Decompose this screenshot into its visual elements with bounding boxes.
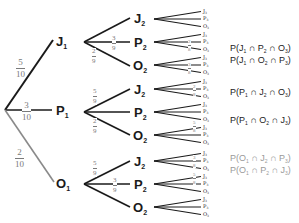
fraction-J1-P2-O3: 28 [188, 39, 191, 52]
branch-level3 [154, 35, 201, 43]
fraction-O1-J2-P3: 38 [193, 155, 196, 168]
branch-level3 [154, 19, 201, 27]
leaf-O3: O3 [203, 166, 209, 172]
leaf-O3: O3 [203, 47, 209, 53]
leaf-O3: O3 [203, 94, 209, 100]
node-P1-O2: O2 [133, 129, 147, 144]
branch-level3 [154, 12, 201, 20]
leaf-P3: P3 [203, 158, 208, 164]
node-O1: O1 [56, 177, 70, 192]
probability-P1-O2-J3: P(P1 ∩ O2 ∩ J3) [230, 116, 291, 126]
node-P1: P1 [56, 104, 69, 119]
fraction-P1: 310 [22, 101, 31, 122]
fraction-P1-J2: 59 [93, 88, 97, 105]
leaf-J3: J3 [203, 151, 207, 157]
branch-level3 [154, 105, 201, 113]
node-P1-P2: P2 [134, 106, 147, 121]
probability-J1-P2-O3: P(J1 ∩ P2 ∩ O3) [230, 44, 291, 54]
leaf-J3: J3 [203, 125, 207, 131]
node-O1-O2: O2 [133, 201, 147, 216]
leaf-O3: O3 [203, 70, 209, 76]
branch-root-J1 [5, 40, 53, 110]
fraction-O1-J2: 59 [93, 160, 97, 177]
fraction-O1-P2: 39 [113, 177, 117, 194]
fraction-J1: 510 [16, 58, 25, 79]
branch-level3 [154, 112, 201, 120]
branch-level3 [154, 58, 201, 66]
node-J1-P2: P2 [134, 36, 147, 51]
leaf-P3: P3 [203, 109, 208, 115]
leaf-J3: J3 [203, 102, 207, 108]
leaf-P3: P3 [203, 16, 208, 22]
fraction-J1-O2: 29 [92, 48, 96, 65]
leaf-P3: P3 [203, 86, 208, 92]
node-J1: J1 [56, 35, 67, 50]
fraction-O1-P2-J3: 58 [193, 172, 196, 185]
leaf-P3: P3 [203, 132, 208, 138]
leaf-J3: J3 [203, 9, 207, 15]
node-O1-J2: J2 [134, 155, 145, 170]
fraction-O1: 210 [15, 148, 24, 169]
leaf-O3: O3 [203, 24, 209, 30]
branch-level3 [154, 42, 201, 50]
fraction-J1-O2-P3: 38 [188, 62, 191, 75]
branches-O1 [84, 161, 130, 207]
leaf-J3: J3 [203, 174, 207, 180]
fraction-P1-O2: 29 [93, 118, 97, 135]
node-J1-O2: O2 [133, 59, 147, 74]
fraction-P1-J2-O3: 28 [193, 84, 196, 97]
probability-O1-J2-P3: P(O1 ∩ J2 ∩ P3) [230, 154, 291, 164]
branches-J1 [84, 18, 130, 66]
branch-level3 [154, 135, 201, 143]
leaf-J3: J3 [203, 197, 207, 203]
node-P1-J2: J2 [134, 83, 145, 98]
branches-P1 [84, 89, 130, 135]
probability-O1-P2-J3: P(O1 ∩ P2 ∩ J3) [230, 166, 291, 176]
branch-level3 [154, 184, 201, 192]
fraction-J1-P2: 39 [112, 35, 116, 52]
probability-J1-O2-P3: P(J1 ∩ O2 ∩ P3) [230, 56, 291, 66]
probability-tree-lines [0, 0, 299, 223]
node-O1-P2: P2 [134, 178, 147, 193]
leaf-P3: P3 [203, 181, 208, 187]
probability-P1-J2-O3: P(P1 ∩ J2 ∩ O3) [230, 88, 291, 98]
branch-level3 [154, 200, 201, 208]
leaf-J3: J3 [203, 79, 207, 85]
leaf-J3: J3 [203, 55, 207, 61]
leaf-P3: P3 [203, 62, 208, 68]
fraction-P1-O2-J3: 58 [193, 120, 196, 133]
leaf-O3: O3 [203, 140, 209, 146]
leaf-P3: P3 [203, 204, 208, 210]
leaf-P3: P3 [203, 39, 208, 45]
leaf-O3: O3 [203, 212, 209, 218]
node-J1-J2: J2 [134, 12, 145, 27]
branch-level3 [154, 207, 201, 215]
branch-level3 [154, 65, 201, 73]
leaf-O3: O3 [203, 117, 209, 123]
leaf-J3: J3 [203, 32, 207, 38]
leaf-O3: O3 [203, 189, 209, 195]
